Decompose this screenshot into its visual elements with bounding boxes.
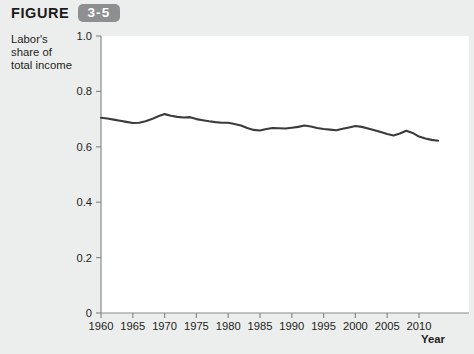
chart-container: 00.20.40.60.81.0 19601965197019751980198… xyxy=(0,0,474,354)
x-tick-label: 1980 xyxy=(216,320,241,332)
y-tick-label: 0 xyxy=(86,307,92,319)
x-tick-label: 2000 xyxy=(343,320,368,332)
y-tick-label: 0.8 xyxy=(76,85,92,97)
y-tick-label: 1.0 xyxy=(76,30,92,42)
x-tick-label: 1990 xyxy=(279,320,304,332)
y-tick-label: 0.4 xyxy=(76,196,92,208)
x-tick-label: 1975 xyxy=(184,320,209,332)
x-tick-label: 1970 xyxy=(152,320,177,332)
y-axis-ticks: 00.20.40.60.81.0 xyxy=(76,30,101,319)
x-tick-label: 1985 xyxy=(248,320,273,332)
x-tick-label: 2005 xyxy=(375,320,400,332)
x-tick-label: 2010 xyxy=(407,320,432,332)
data-series-line xyxy=(101,114,438,141)
x-axis-title: Year xyxy=(421,333,445,345)
x-tick-label: 1995 xyxy=(311,320,336,332)
x-axis-ticks: 1960196519701975198019851990199520002005… xyxy=(89,313,432,332)
y-tick-label: 0.2 xyxy=(76,252,92,264)
line-chart: 00.20.40.60.81.0 19601965197019751980198… xyxy=(0,0,474,354)
y-tick-label: 0.6 xyxy=(76,141,92,153)
x-tick-label: 1960 xyxy=(89,320,114,332)
x-tick-label: 1965 xyxy=(120,320,145,332)
